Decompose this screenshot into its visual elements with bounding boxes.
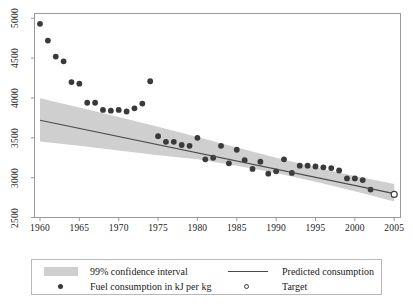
fuel-consumption-data-point: [84, 100, 90, 106]
x-axis-tick-label: 1980: [188, 223, 208, 233]
fuel-consumption-data-point: [187, 143, 193, 149]
y-axis-tick-label: 5000: [10, 8, 20, 28]
fuel-consumption-data-point: [328, 165, 334, 171]
fuel-consumption-data-point: [124, 109, 130, 115]
open-circle-marker-icon: [244, 284, 249, 289]
fuel-consumption-data-point: [320, 164, 326, 170]
y-axis-tick-label: 4000: [10, 88, 20, 108]
fuel-consumption-data-point: [171, 139, 177, 145]
legend-label-predicted-consumption: Predicted consumption: [282, 264, 374, 279]
confidence-band-swatch-icon: [44, 267, 78, 276]
x-axis-tick-label: 2000: [345, 223, 365, 233]
x-axis-tick-label: 1965: [69, 223, 89, 233]
predicted-consumption-line: [40, 120, 394, 193]
x-axis-tick-label: 1960: [30, 223, 50, 233]
fuel-consumption-data-point: [281, 156, 287, 162]
fuel-consumption-data-point: [305, 163, 311, 169]
fuel-consumption-data-point: [352, 176, 358, 182]
legend-label-target: Target: [282, 279, 307, 294]
x-axis-tick-label: 1990: [266, 223, 286, 233]
x-axis-tick-label: 1970: [109, 223, 129, 233]
fuel-consumption-data-point: [195, 135, 201, 141]
fuel-consumption-data-point: [265, 171, 271, 177]
fuel-consumption-data-point: [53, 54, 59, 60]
fuel-consumption-data-point: [336, 168, 342, 174]
fuel-consumption-data-point: [100, 107, 106, 113]
fuel-consumption-data-point: [234, 147, 240, 153]
fuel-consumption-data-point: [139, 101, 145, 107]
y-axis-tick-label: 3000: [10, 168, 20, 188]
fuel-consumption-data-point: [147, 78, 153, 84]
legend-label-confidence-interval: 99% confidence interval: [90, 264, 188, 279]
fuel-consumption-data-point: [37, 21, 43, 27]
x-axis-tick-label: 1995: [306, 223, 326, 233]
predicted-line-swatch-icon: [228, 271, 268, 272]
fuel-consumption-data-point: [297, 163, 303, 169]
fuel-consumption-data-point: [179, 142, 185, 148]
filled-circle-marker-icon: [58, 284, 63, 289]
x-axis-tick-label: 2005: [384, 223, 404, 233]
x-axis-tick-label: 1975: [148, 223, 168, 233]
y-axis-tick-label: 3500: [10, 128, 20, 148]
fuel-consumption-data-point: [313, 164, 319, 170]
legend-label-fuel-consumption: Fuel consumption in kJ per kg: [90, 279, 211, 294]
y-axis-tick-label: 2500: [10, 208, 20, 228]
fuel-consumption-data-point: [61, 58, 67, 64]
fuel-consumption-data-point: [202, 156, 208, 162]
fuel-consumption-data-point: [218, 143, 224, 149]
chart-figure: 250030003500400045005000 196019651970197…: [0, 0, 413, 307]
fuel-consumption-data-point: [76, 81, 82, 87]
fuel-consumption-data-point: [163, 139, 169, 145]
target-data-point: [391, 191, 397, 197]
confidence-interval-band: [40, 98, 394, 201]
fuel-consumption-data-point: [69, 79, 75, 85]
x-axis-tick-label: 1985: [227, 223, 247, 233]
y-axis-tick-label: 4500: [10, 48, 20, 68]
fuel-consumption-data-point: [344, 176, 350, 182]
chart-legend: 99% confidence interval Predicted consum…: [31, 259, 382, 295]
fuel-consumption-data-point: [226, 160, 232, 166]
fuel-consumption-data-point: [155, 133, 161, 139]
fuel-consumption-data-point: [116, 107, 122, 113]
fuel-consumption-data-point: [132, 105, 138, 111]
fuel-consumption-data-point: [45, 38, 51, 44]
fuel-consumption-data-point: [257, 159, 263, 165]
fuel-consumption-data-point: [360, 177, 366, 183]
fuel-consumption-data-point: [108, 108, 114, 114]
fuel-consumption-data-point: [92, 100, 98, 106]
fuel-consumption-data-point: [250, 166, 256, 172]
